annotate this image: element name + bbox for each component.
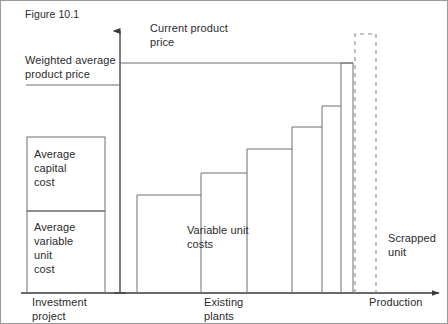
average-variable-unit-cost-label: Average variable unit cost [34, 220, 75, 276]
scrapped-unit-label: Scrapped unit [388, 231, 436, 259]
figure-number: Figure 10.1 [25, 7, 79, 21]
variable-unit-cost-staircase [137, 63, 353, 293]
existing-plants-label: Existing plants [204, 295, 243, 323]
figure-canvas: Figure 10.1 Current product price Weight… [0, 0, 448, 324]
current-product-price-label: Current product price [150, 21, 228, 49]
investment-project-label: Investment project [32, 295, 87, 323]
scrapped-unit-box [355, 34, 376, 293]
weighted-average-product-price-label: Weighted average product price [25, 53, 116, 81]
variable-unit-costs-label: Variable unit costs [187, 223, 249, 251]
production-axis-label: Production [369, 295, 423, 309]
average-capital-cost-label: Average capital cost [34, 147, 75, 189]
